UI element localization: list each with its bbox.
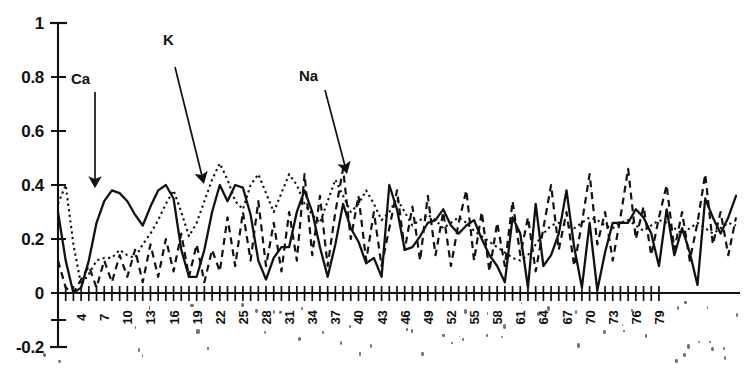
x-axis-tick-label: 37 xyxy=(328,304,343,332)
x-axis-tick-label: 52 xyxy=(443,304,458,332)
scan-speck xyxy=(577,343,580,347)
scan-speck xyxy=(464,309,467,313)
x-axis-tick-label: 61 xyxy=(513,304,528,332)
annotation-arrows xyxy=(95,67,345,180)
scan-speck xyxy=(280,311,282,313)
x-axis-tick-label: 10 xyxy=(120,304,135,332)
series-line-na xyxy=(58,169,736,293)
x-axis-tick-label: 79 xyxy=(651,304,666,332)
x-axis-tick-label: 49 xyxy=(420,304,435,332)
x-axis-tick-label: 55 xyxy=(467,304,482,332)
scan-speck xyxy=(406,328,408,331)
scan-speck xyxy=(675,359,678,362)
x-axis-tick-label: 7 xyxy=(97,304,112,332)
scan-speck xyxy=(411,329,413,333)
scan-speck xyxy=(298,337,301,341)
scan-speck xyxy=(196,329,199,334)
x-axis-tick-label: 76 xyxy=(628,304,643,332)
x-axis-tick-label: 46 xyxy=(397,304,412,332)
x-axis-tick-label: 34 xyxy=(305,304,320,332)
scan-speck xyxy=(631,309,632,312)
axis-lines xyxy=(58,23,740,347)
scan-speck xyxy=(677,306,679,310)
scan-speck xyxy=(255,309,258,313)
annotation-arrow-k xyxy=(175,67,202,176)
scan-speck xyxy=(301,307,303,309)
x-axis-tick-label: 13 xyxy=(143,304,158,332)
scan-speck xyxy=(683,353,686,357)
scan-speck xyxy=(684,301,687,304)
x-axis-tick-label: 22 xyxy=(212,304,227,332)
x-axis-tick-label: 4 xyxy=(74,304,89,332)
x-axis-tick-label: 19 xyxy=(189,304,204,332)
x-axis-tick-label: 67 xyxy=(559,304,574,332)
scan-speck xyxy=(442,334,444,337)
x-axis-tick-label: 43 xyxy=(374,304,389,332)
scan-speck xyxy=(207,347,209,350)
scan-speck xyxy=(322,331,324,333)
series-line-ca xyxy=(58,185,736,293)
scan-speck xyxy=(359,352,361,355)
scan-speck xyxy=(190,304,193,307)
scan-speck xyxy=(462,338,464,341)
x-axis-tick-label: 28 xyxy=(259,304,274,332)
x-axis-tick-label: 73 xyxy=(605,304,620,332)
x-axis-tick-label: 70 xyxy=(582,304,597,332)
series-group xyxy=(58,163,736,293)
x-axis-tick-label: 40 xyxy=(351,304,366,332)
scan-speck xyxy=(421,352,424,356)
chart-canvas: 1 0.8 0.6 0.4 0.2 0 -0.2 Ca K Na xyxy=(0,0,754,379)
scan-speck xyxy=(623,330,624,332)
x-axis-tick-label: 16 xyxy=(166,304,181,332)
scan-speck xyxy=(709,341,711,343)
scan-speck xyxy=(459,336,460,337)
scan-speck xyxy=(547,306,550,311)
scan-speck xyxy=(241,303,244,307)
x-axis-tick-label: 31 xyxy=(282,304,297,332)
annotation-arrow-na xyxy=(325,90,345,166)
scan-speck xyxy=(687,344,690,349)
x-axis-tick-label: 25 xyxy=(235,304,250,332)
